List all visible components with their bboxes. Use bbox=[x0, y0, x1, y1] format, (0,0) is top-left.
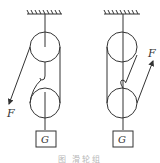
left-rope-free bbox=[9, 47, 30, 104]
pulley-diagram-canvas: F G F G bbox=[0, 0, 160, 163]
right-pulley-system bbox=[104, 10, 153, 147]
left-pulley-system bbox=[9, 10, 62, 147]
right-rope-free bbox=[137, 61, 153, 103]
left-hook bbox=[40, 62, 45, 80]
left-load-label: G bbox=[41, 134, 49, 145]
right-fixed-pulley bbox=[107, 32, 137, 62]
left-ceiling-support bbox=[27, 10, 62, 14]
right-load-label: G bbox=[118, 134, 126, 145]
left-force-label: F bbox=[6, 107, 15, 120]
right-ceiling-support bbox=[104, 10, 140, 14]
right-movable-pulley bbox=[107, 88, 137, 118]
right-force-label: F bbox=[147, 47, 156, 60]
figure-caption: 图 滑轮组 bbox=[0, 153, 160, 163]
